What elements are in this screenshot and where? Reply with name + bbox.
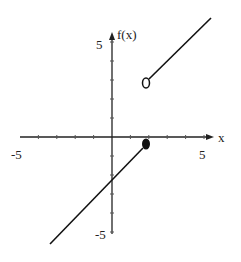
x-max-label: 5: [199, 147, 206, 162]
piecewise-graph: f(x) x -5 5 5 -5: [0, 0, 241, 262]
y-axis-arrow-icon: [109, 32, 115, 40]
closed-endpoint-dot: [142, 139, 150, 150]
x-axis-arrow-icon: [206, 134, 214, 140]
x-min-label: -5: [11, 147, 22, 162]
y-min-label: -5: [95, 227, 106, 242]
y-max-label: 5: [96, 37, 103, 52]
right-piece-line: [149, 18, 211, 79]
open-endpoint-circle: [143, 78, 150, 88]
y-axis-label: f(x): [117, 27, 137, 42]
x-axis-label: x: [218, 130, 225, 145]
